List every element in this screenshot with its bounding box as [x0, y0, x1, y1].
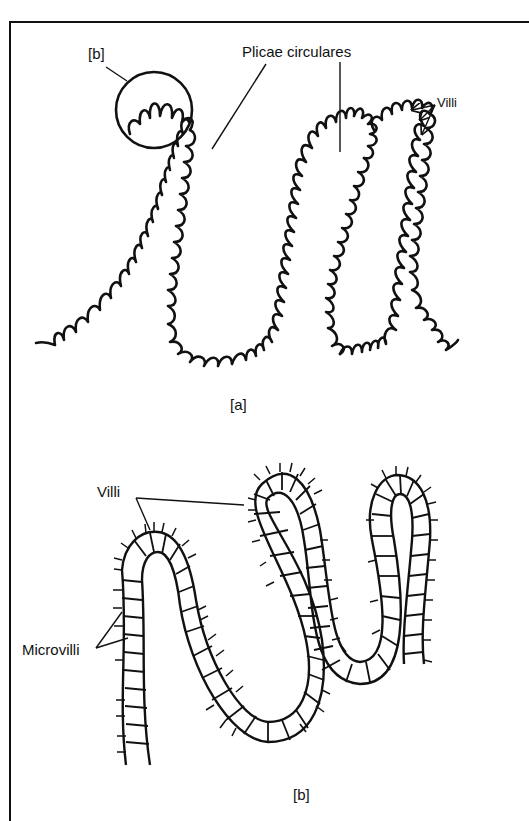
panel-a-caption: [a]	[230, 397, 247, 412]
villi-label-b: Villi	[97, 484, 120, 499]
microvilli-bristles	[113, 463, 438, 752]
plicae-circulares-drawing	[36, 100, 458, 366]
plicae-circulares-label: Plicae circulares	[242, 44, 351, 59]
microvilli-label: Microvilli	[22, 642, 80, 657]
villi-drawing	[122, 474, 430, 765]
inset-reference-label: [b]	[88, 46, 105, 61]
villi-label-a: Villi	[437, 96, 457, 109]
epithelial-cells	[122, 472, 430, 744]
panel-b-caption: [b]	[293, 787, 310, 802]
